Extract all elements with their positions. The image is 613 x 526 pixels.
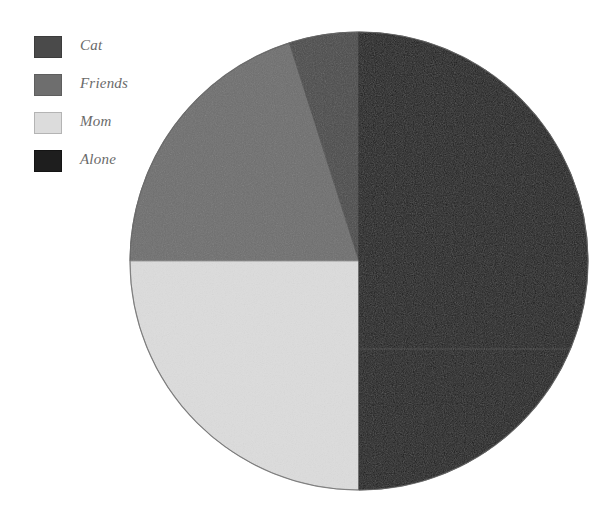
legend-swatch-friends [34, 74, 62, 96]
pie-slice-mom[interactable] [130, 261, 359, 490]
legend-item-alone[interactable]: Alone [34, 150, 214, 188]
chart-legend: Cat Friends Mom Alone [34, 36, 214, 188]
legend-item-cat[interactable]: Cat [34, 36, 214, 74]
legend-swatch-cat [34, 36, 62, 58]
legend-item-mom[interactable]: Mom [34, 112, 214, 150]
pie-slice-alone[interactable] [359, 32, 588, 490]
legend-label-mom: Mom [80, 113, 111, 130]
legend-label-friends: Friends [80, 75, 128, 92]
legend-swatch-alone [34, 150, 62, 172]
legend-swatch-mom [34, 112, 62, 134]
chart-canvas: Cat Friends Mom Alone [0, 0, 613, 526]
legend-label-cat: Cat [80, 37, 102, 54]
legend-label-alone: Alone [80, 151, 116, 168]
legend-item-friends[interactable]: Friends [34, 74, 214, 112]
